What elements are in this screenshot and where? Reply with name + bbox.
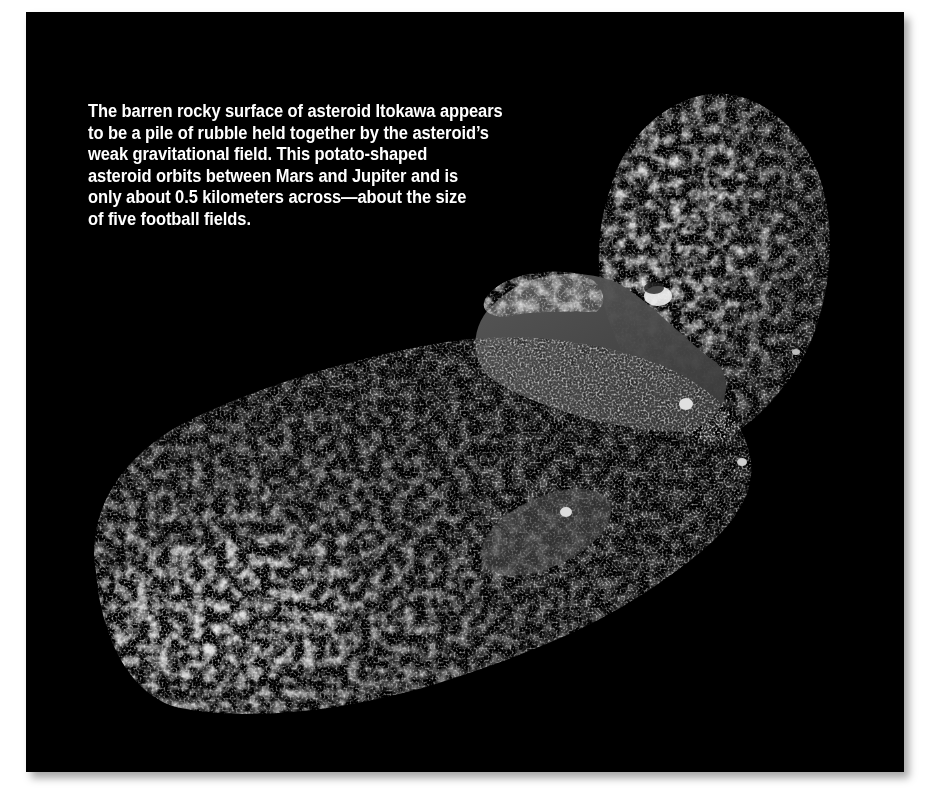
caption-line: to be a pile of rubble held together by … [88,122,570,144]
photo-frame: The barren rocky surface of asteroid Ito… [26,12,904,772]
caption-line: asteroid orbits between Mars and Jupiter… [88,165,570,187]
caption-line: only about 0.5 kilometers across—about t… [88,186,570,208]
caption-line: The barren rocky surface of asteroid Ito… [88,100,570,122]
image-caption: The barren rocky surface of asteroid Ito… [88,100,570,230]
caption-line: weak gravitational field. This potato-sh… [88,143,570,165]
caption-line: of five football fields. [88,208,570,230]
